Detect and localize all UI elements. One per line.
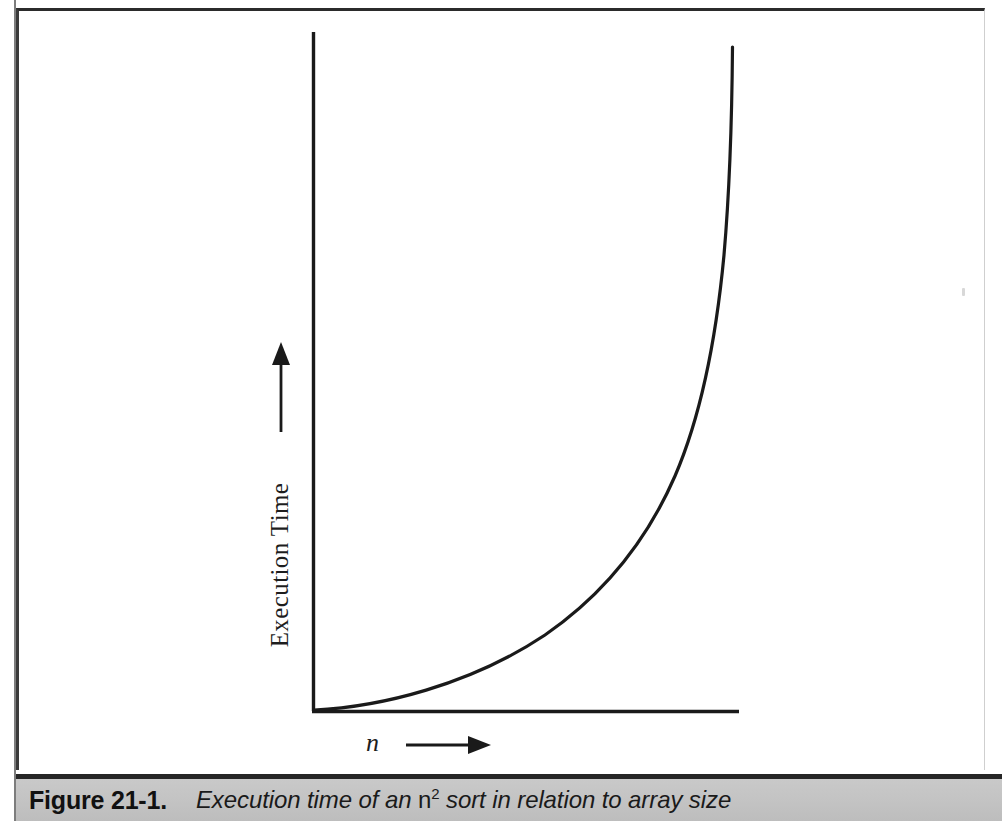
scan-artifact-speck	[962, 288, 965, 296]
caption-inner: Figure 21-1. Execution time of an n2 sor…	[29, 779, 1002, 821]
caption-title-suffix: sort in relation to array size	[439, 786, 731, 813]
caption-title-prefix: Execution time of an	[196, 786, 418, 813]
y-axis-label: Execution Time	[258, 440, 302, 690]
x-axis-label-text: n	[366, 730, 379, 756]
y-axis-label-text: Execution Time	[266, 483, 294, 648]
x-axis-label: n	[366, 726, 379, 760]
figure-container: Execution Time n Figure 21-1. Execution …	[0, 0, 1002, 821]
caption-title: Execution time of an n2 sort in relation…	[196, 786, 731, 814]
caption-variable-n: n	[418, 786, 431, 813]
caption-bar: Figure 21-1. Execution time of an n2 sor…	[16, 774, 1002, 821]
plot-panel	[16, 8, 985, 770]
caption-figure-number: Figure 21-1.	[29, 786, 167, 815]
